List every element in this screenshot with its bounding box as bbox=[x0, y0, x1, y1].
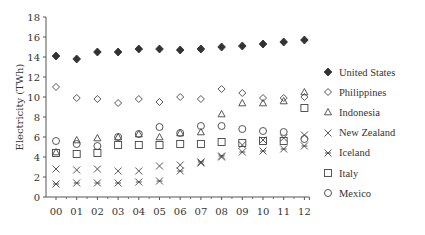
x-tick-label: 06 bbox=[174, 206, 187, 217]
circle-marker bbox=[260, 128, 267, 135]
square-marker bbox=[115, 142, 122, 149]
x-marker bbox=[53, 166, 60, 173]
asterisk-marker bbox=[260, 148, 267, 155]
asterisk-marker bbox=[197, 159, 204, 166]
x-tick-label: 10 bbox=[257, 206, 270, 217]
x-tick-label: 11 bbox=[277, 206, 290, 217]
series-new-zealand bbox=[53, 132, 308, 175]
asterisk-marker bbox=[73, 180, 80, 187]
asterisk-marker bbox=[135, 179, 142, 186]
filled-diamond-marker bbox=[156, 45, 164, 53]
square-marker bbox=[135, 142, 142, 149]
triangle-icon bbox=[322, 106, 334, 118]
filled-diamond-marker bbox=[73, 55, 81, 63]
circle-marker bbox=[156, 124, 163, 131]
y-tick-label: 4 bbox=[34, 152, 40, 163]
y-tick-label: 18 bbox=[27, 12, 40, 23]
x-marker bbox=[301, 132, 308, 139]
square-marker bbox=[94, 150, 101, 157]
square-marker bbox=[218, 139, 225, 146]
legend-item: United States bbox=[322, 62, 395, 82]
asterisk-marker bbox=[301, 143, 308, 150]
circle-marker bbox=[218, 123, 225, 130]
open-diamond-marker bbox=[115, 100, 122, 107]
triangle-marker bbox=[218, 111, 225, 117]
filled-diamond-marker bbox=[94, 48, 102, 56]
series-united-states bbox=[52, 36, 308, 63]
legend-item: Italy bbox=[322, 163, 395, 183]
triangle-marker bbox=[239, 100, 246, 106]
asterisk-marker bbox=[177, 168, 184, 175]
x-marker bbox=[156, 163, 163, 170]
legend-label: Philippines bbox=[339, 87, 386, 98]
legend-label: Italy bbox=[339, 168, 358, 179]
x-marker bbox=[135, 168, 142, 175]
filled-diamond-marker bbox=[135, 45, 143, 53]
filled-diamond-marker bbox=[280, 38, 288, 46]
circle-marker bbox=[239, 126, 246, 133]
x-tick-label: 04 bbox=[132, 206, 145, 217]
circle-marker bbox=[53, 138, 60, 145]
triangle-marker bbox=[156, 134, 163, 140]
legend-item: Philippines bbox=[322, 82, 395, 102]
open-diamond-marker bbox=[53, 84, 60, 91]
asterisk-marker bbox=[280, 146, 287, 153]
open-diamond-marker bbox=[94, 96, 101, 103]
asterisk-marker bbox=[94, 180, 101, 187]
y-tick-label: 0 bbox=[34, 192, 40, 203]
asterisk-marker bbox=[156, 178, 163, 185]
asterisk-icon bbox=[322, 147, 334, 159]
y-tick-label: 10 bbox=[27, 92, 40, 103]
square-marker bbox=[197, 141, 204, 148]
triangle-marker bbox=[94, 135, 101, 141]
filled-diamond-marker bbox=[114, 48, 122, 56]
x-marker bbox=[239, 142, 246, 149]
y-tick-label: 8 bbox=[34, 112, 40, 123]
filled-diamond-marker bbox=[52, 52, 60, 60]
open-diamond-marker bbox=[73, 95, 80, 102]
circle-marker bbox=[94, 143, 101, 150]
scatter-chart: 024681012141618Electricity (TWh)00010203… bbox=[0, 0, 425, 235]
x-marker bbox=[94, 166, 101, 173]
x-tick-label: 07 bbox=[195, 206, 208, 217]
legend-label: Indonesia bbox=[339, 107, 380, 118]
x-tick-label: 12 bbox=[298, 206, 311, 217]
x-marker bbox=[218, 154, 225, 161]
filled-diamond-marker bbox=[259, 40, 267, 48]
circle-marker bbox=[73, 141, 80, 148]
open-diamond-marker bbox=[239, 90, 246, 97]
x-tick-label: 05 bbox=[153, 206, 166, 217]
circle-icon bbox=[322, 187, 334, 199]
filled-diamond-marker bbox=[301, 36, 309, 44]
asterisk-marker bbox=[53, 181, 60, 188]
legend-label: Mexico bbox=[339, 188, 371, 199]
circle-marker bbox=[301, 136, 308, 143]
filled-diamond-marker bbox=[176, 46, 184, 54]
legend: United StatesPhilippinesIndonesiaNew Zea… bbox=[322, 62, 395, 203]
filled-diamond-marker bbox=[197, 45, 205, 53]
open-diamond-marker bbox=[197, 96, 204, 103]
x-tick-label: 01 bbox=[70, 206, 83, 217]
x-tick-label: 09 bbox=[236, 206, 249, 217]
x-marker bbox=[73, 167, 80, 174]
open-diamond-marker bbox=[177, 94, 184, 101]
legend-item: New Zealand bbox=[322, 123, 395, 143]
x-icon bbox=[322, 127, 334, 139]
filled-diamond-marker bbox=[239, 42, 247, 50]
open-diamond-marker bbox=[156, 99, 163, 106]
open-diamond-marker bbox=[135, 96, 142, 103]
open-diamond-marker bbox=[260, 95, 267, 102]
square-marker bbox=[301, 105, 308, 112]
triangle-marker bbox=[260, 100, 267, 106]
circle-marker bbox=[280, 129, 287, 136]
legend-item: Mexico bbox=[322, 183, 395, 203]
filled-diamond-marker bbox=[218, 43, 226, 51]
y-tick-label: 12 bbox=[27, 72, 40, 83]
x-tick-label: 00 bbox=[50, 206, 63, 217]
asterisk-marker bbox=[239, 149, 246, 156]
y-tick-label: 16 bbox=[27, 32, 40, 43]
y-tick-label: 6 bbox=[34, 132, 40, 143]
asterisk-marker bbox=[115, 180, 122, 187]
square-marker bbox=[73, 151, 80, 158]
legend-label: New Zealand bbox=[339, 127, 395, 138]
